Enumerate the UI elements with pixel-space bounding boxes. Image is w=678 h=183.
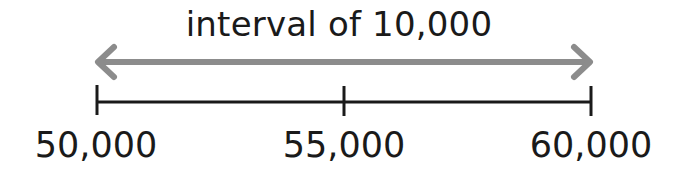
tick-label-60000: 60,000 (530, 125, 652, 165)
tick-label-50000: 50,000 (35, 125, 157, 165)
double-arrow-icon (98, 47, 590, 77)
number-line (97, 85, 591, 116)
tick-label-55000: 55,000 (283, 125, 405, 165)
